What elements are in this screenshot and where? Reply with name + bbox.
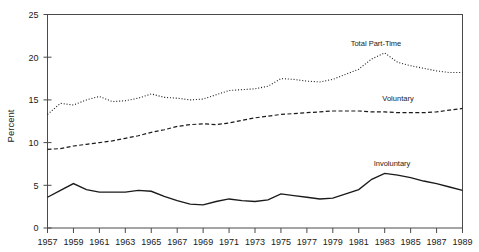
- x-axis-tick-label: 1967: [167, 237, 187, 247]
- line-chart: 0510152025 19571959196119631965196719691…: [0, 0, 479, 252]
- x-axis-tick-label: 1965: [141, 237, 161, 247]
- x-axis-tick-label: 1983: [375, 237, 395, 247]
- y-axis-title: Percent: [5, 109, 16, 142]
- series-line-voluntary: [48, 108, 463, 149]
- y-axis-tick-label: 5: [33, 181, 38, 191]
- series-line-total-part-time: [48, 53, 463, 114]
- x-axis-tick-label: 1969: [193, 237, 213, 247]
- series-label-voluntary: Voluntary: [382, 94, 414, 103]
- x-axis-tick-label: 1973: [245, 237, 265, 247]
- x-axis-tick-label: 1985: [401, 237, 421, 247]
- x-axis-tick-label: 1957: [37, 237, 57, 247]
- x-axis-tick-label: 1963: [115, 237, 135, 247]
- y-axis-tick-label: 20: [28, 53, 38, 63]
- y-axis-tick-label: 0: [33, 223, 38, 233]
- series-label-total-part-time: Total Part-Time: [351, 39, 402, 48]
- x-axis-tick-label: 1981: [349, 237, 369, 247]
- y-axis-tick-label: 15: [28, 95, 38, 105]
- x-axis-ticks: [48, 228, 463, 233]
- chart-container: 0510152025 19571959196119631965196719691…: [0, 0, 479, 252]
- series-line-involuntary: [48, 173, 463, 205]
- x-axis-tick-label: 1977: [297, 237, 317, 247]
- x-axis-tick-label: 1959: [63, 237, 83, 247]
- x-axis-tick-labels: 1957195919611963196519671969197119731975…: [37, 237, 472, 247]
- y-axis-tick-labels: 0510152025: [28, 10, 38, 234]
- x-axis-tick-label: 1975: [271, 237, 291, 247]
- y-axis-tick-label: 25: [28, 10, 38, 20]
- x-axis-tick-label: 1979: [323, 237, 343, 247]
- x-axis-tick-label: 1971: [219, 237, 239, 247]
- series-label-involuntary: Involuntary: [374, 159, 411, 168]
- x-axis-tick-label: 1987: [427, 237, 447, 247]
- x-axis-tick-label: 1989: [452, 237, 472, 247]
- y-axis-tick-label: 10: [28, 138, 38, 148]
- x-axis-tick-label: 1961: [89, 237, 109, 247]
